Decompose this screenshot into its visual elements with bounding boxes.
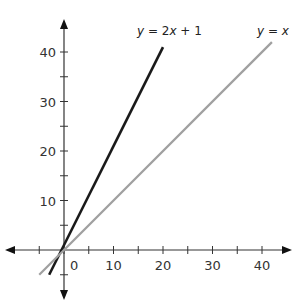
x-tick-label: 30 (204, 258, 221, 273)
series-lines (39, 42, 272, 275)
x-tick-label: 20 (155, 258, 172, 273)
x-tick-label: 10 (105, 258, 122, 273)
y-axis-arrow-up-icon (60, 19, 68, 29)
series-line-y-2x-plus-1 (49, 47, 163, 275)
x-tick-label: 40 (254, 258, 271, 273)
y-tick-label: 10 (39, 194, 56, 209)
equation-label-y-2x-plus-1: y = 2x + 1 (136, 24, 202, 38)
series-line-y-x (39, 42, 272, 275)
equation-label-y-x: y = x (256, 24, 290, 38)
equation-labels: y = 2x + 1y = x (136, 24, 290, 38)
y-tick-label: 20 (39, 144, 56, 159)
axes (5, 19, 292, 300)
x-axis-arrow-left-icon (5, 246, 15, 254)
x-axis-arrow-right-icon (282, 246, 292, 254)
origin-label: 0 (70, 258, 78, 273)
y-axis-arrow-down-icon (60, 290, 68, 300)
y-tick-label: 30 (39, 95, 56, 110)
y-tick-label: 40 (39, 45, 56, 60)
line-chart: 01020304010203040 y = 2x + 1y = x (0, 0, 299, 307)
